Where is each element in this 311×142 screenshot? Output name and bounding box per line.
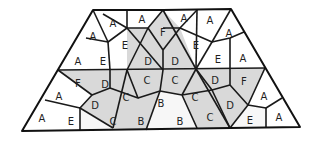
cell-label-e: E xyxy=(193,40,199,51)
cell-label-c: C xyxy=(192,92,199,103)
cell-label-a: A xyxy=(226,28,233,39)
cell-label-d: D xyxy=(101,79,109,90)
cell-label-a: A xyxy=(276,112,283,123)
cell-label-e: E xyxy=(247,115,253,126)
cell-label-a: A xyxy=(139,14,146,25)
cell-label-a: A xyxy=(75,56,82,67)
cell-label-c: C xyxy=(144,75,151,86)
cell-label-a: A xyxy=(207,15,214,26)
cell-label-b: B xyxy=(158,98,165,109)
cell-label-f: F xyxy=(241,76,247,87)
cell-label-e: E xyxy=(68,116,74,127)
cell-label-a: A xyxy=(56,91,63,102)
cell-label-a: A xyxy=(90,31,97,42)
cell-label-b: B xyxy=(138,116,145,127)
cell-label-c: C xyxy=(123,92,130,103)
cell-label-e: E xyxy=(122,40,128,51)
cell-label-c: C xyxy=(207,112,214,123)
cell-label-a: A xyxy=(39,113,46,124)
cell-label-a: A xyxy=(181,13,188,24)
cell-label-f: F xyxy=(160,27,166,38)
cell-label-d: D xyxy=(211,75,219,86)
cell-label-d: D xyxy=(171,56,179,67)
cell-label-f: F xyxy=(75,78,81,89)
cell-label-d: D xyxy=(144,56,152,67)
edge xyxy=(180,9,231,42)
cell-label-d: D xyxy=(226,100,234,111)
cell-label-a: A xyxy=(110,18,117,29)
cell-label-a: A xyxy=(261,91,268,102)
cell-label-c: C xyxy=(172,75,179,86)
cell-label-e: E xyxy=(100,56,106,67)
tiling-diagram: AAFAAAEDDEAAEEAFDCCDFACBCADDAECBBCEA xyxy=(0,0,311,142)
cell-label-a: A xyxy=(240,53,247,64)
cell-label-e: E xyxy=(215,54,221,65)
cell-label-b: B xyxy=(177,116,184,127)
cell-label-d: D xyxy=(91,100,99,111)
edge xyxy=(108,42,110,70)
cell-label-c: C xyxy=(110,116,117,127)
